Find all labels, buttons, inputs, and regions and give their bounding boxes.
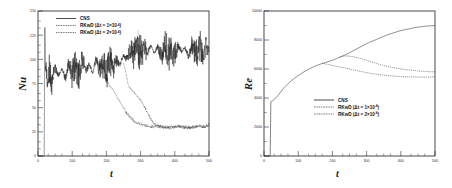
x-ticklabel: 500	[432, 159, 438, 163]
reynolds-y-ticks	[264, 11, 269, 156]
x-ticklabel: 100	[295, 159, 301, 163]
series-path	[124, 63, 210, 129]
y-ticklabel: 50	[32, 106, 36, 110]
series-path	[103, 67, 209, 129]
legend-label-cns: CNS	[338, 98, 348, 103]
y-ticklabel: 6000	[254, 67, 262, 71]
two-panel-figure: 0 100 200 300 400 500	[0, 0, 452, 188]
nusselt-axis-label-y: Nu	[16, 64, 28, 104]
y-ticklabel: 0	[260, 154, 262, 158]
legend-label-cns: CNS	[80, 16, 90, 21]
reynolds-plot-svg: 0 100 200 300 400 500	[226, 0, 452, 188]
x-ticklabel: 500	[206, 159, 212, 163]
y-ticklabel: 150	[30, 9, 36, 13]
series-path	[264, 26, 435, 157]
x-ticklabel: 400	[398, 159, 404, 163]
legend-label-rkwd-1: RKwD (Δt = 1×10-4)	[80, 23, 122, 29]
nusselt-legend: CNS RKwD (Δt = 1×10-4) RKwD (Δt = 2×10-4…	[52, 14, 138, 37]
x-ticklabel: 100	[69, 159, 75, 163]
reynolds-legend: CNS RKwD (Δt = 1×10-4) RKwD (Δt = 2×10-4…	[310, 95, 402, 118]
nusselt-y-ticklabels: 0 25 50 75 100 125 150	[30, 9, 36, 158]
reynolds-x-ticklabels: 0 100 200 300 400 500	[263, 159, 438, 163]
nusselt-x-ticks	[38, 151, 209, 156]
reynolds-axis-label-y: Re	[242, 64, 254, 104]
reynolds-x-ticks	[264, 151, 435, 156]
legend-label-rkwd-1: RKwD (Δt = 1×10-4)	[338, 104, 380, 110]
y-ticklabel: 10000	[252, 9, 262, 13]
reynolds-axis-label-x: t	[336, 168, 339, 179]
nusselt-panel: 0 100 200 300 400 500	[0, 0, 226, 188]
x-ticklabel: 200	[329, 159, 335, 163]
legend-label-rkwd-2: RKwD (Δt = 2×10-4)	[338, 111, 380, 117]
y-ticklabel: 0	[34, 154, 36, 158]
x-ticklabel: 200	[103, 159, 109, 163]
y-ticklabel: 75	[32, 82, 36, 86]
nusselt-series-group	[38, 27, 209, 156]
x-ticklabel: 0	[37, 159, 39, 163]
series-path	[339, 56, 435, 72]
reynolds-panel: 0 100 200 300 400 500	[226, 0, 452, 188]
nusselt-y-ticks	[38, 11, 43, 156]
legend-label-rkwd-2: RKwD (Δt = 2×10-4)	[80, 30, 122, 36]
nusselt-x-ticklabels: 0 100 200 300 400 500	[37, 159, 212, 163]
reynolds-plot-frame	[264, 11, 435, 156]
x-ticklabel: 0	[263, 159, 265, 163]
y-ticklabel: 25	[32, 130, 36, 134]
x-ticklabel: 300	[138, 159, 144, 163]
series-path	[322, 63, 435, 77]
y-ticklabel: 8000	[254, 38, 262, 42]
reynolds-series-group	[264, 26, 435, 157]
y-ticklabel: 2000	[254, 125, 262, 129]
y-ticklabel: 125	[30, 34, 36, 38]
y-ticklabel: 4000	[254, 96, 262, 100]
y-ticklabel: 100	[30, 58, 36, 62]
nusselt-plot-svg: 0 100 200 300 400 500	[0, 0, 226, 188]
series-path	[38, 27, 209, 156]
x-ticklabel: 400	[172, 159, 178, 163]
x-ticklabel: 300	[364, 159, 370, 163]
nusselt-axis-label-x: t	[110, 168, 113, 179]
